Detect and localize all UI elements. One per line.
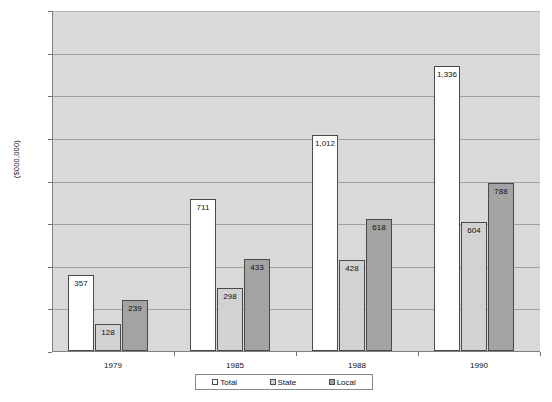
bar-state-1985[interactable]: 298 [217, 288, 243, 352]
legend-item-label: Total [220, 378, 237, 387]
x-axis-tick-mark [174, 352, 175, 356]
bar-local-1979[interactable]: 239 [122, 300, 148, 351]
bar-value-label: 239 [123, 304, 147, 314]
bar-local-1990[interactable]: 788 [488, 183, 514, 351]
legend-item-total[interactable]: Total [212, 378, 237, 387]
bar-value-label: 1,012 [313, 139, 337, 149]
legend-item-state[interactable]: State [270, 378, 297, 387]
x-axis-tick-label-1988: 1988 [317, 361, 397, 370]
bar-value-label: 1,336 [435, 70, 459, 80]
bar-total-1979[interactable]: 357 [68, 275, 94, 351]
bar-group-1979: 357128239 [68, 11, 148, 351]
bar-total-1988[interactable]: 1,012 [312, 135, 338, 351]
x-axis-tick-mark [418, 352, 419, 356]
bar-local-1985[interactable]: 433 [244, 259, 270, 351]
legend-swatch-icon [329, 379, 335, 385]
bar-state-1979[interactable]: 128 [95, 324, 121, 351]
bar-value-label: 618 [367, 223, 391, 233]
bar-value-label: 788 [489, 187, 513, 197]
bar-chart: ($000,000) 02004006008001000120014001600… [0, 0, 552, 402]
legend-item-label: Local [337, 378, 356, 387]
plot-inner: 3571282397112984331,0124286181,336604788 [53, 11, 540, 351]
y-axis-title: ($000,000) [12, 140, 26, 178]
bar-value-label: 433 [245, 263, 269, 273]
bar-group-1990: 1,336604788 [434, 11, 514, 351]
x-axis-tick-label-1990: 1990 [439, 361, 519, 370]
x-axis-tick-label-1985: 1985 [195, 361, 275, 370]
x-axis-tick-label-1979: 1979 [73, 361, 153, 370]
bar-group-1985: 711298433 [190, 11, 270, 351]
plot-area: 3571282397112984331,0124286181,336604788 [52, 11, 540, 352]
bar-total-1985[interactable]: 711 [190, 199, 216, 351]
legend-swatch-icon [212, 379, 218, 385]
bar-value-label: 357 [69, 279, 93, 289]
legend-item-label: State [278, 378, 297, 387]
legend-item-local[interactable]: Local [329, 378, 356, 387]
bar-state-1990[interactable]: 604 [461, 222, 487, 351]
bar-group-1988: 1,012428618 [312, 11, 392, 351]
legend-swatch-icon [270, 379, 276, 385]
x-axis-tick-mark [296, 352, 297, 356]
bar-total-1990[interactable]: 1,336 [434, 66, 460, 351]
bar-value-label: 128 [96, 328, 120, 338]
bar-state-1988[interactable]: 428 [339, 260, 365, 351]
chart-legend: TotalStateLocal [195, 374, 373, 390]
bar-value-label: 298 [218, 292, 242, 302]
y-axis-tick-mark [48, 352, 52, 353]
bar-value-label: 711 [191, 203, 215, 213]
x-axis-tick-mark [540, 352, 541, 356]
bar-value-label: 604 [462, 226, 486, 236]
bar-local-1988[interactable]: 618 [366, 219, 392, 351]
bar-value-label: 428 [340, 264, 364, 274]
